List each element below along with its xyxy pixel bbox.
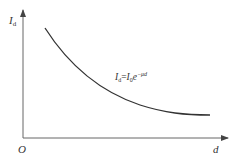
origin-label: O	[18, 143, 26, 155]
formula-annotation: Id=I0e−μd	[114, 71, 148, 83]
y-axis-label: Id	[8, 14, 17, 28]
decay-diagram: Id O d Id=I0e−μd	[0, 0, 236, 167]
x-axis-label: d	[213, 143, 219, 155]
